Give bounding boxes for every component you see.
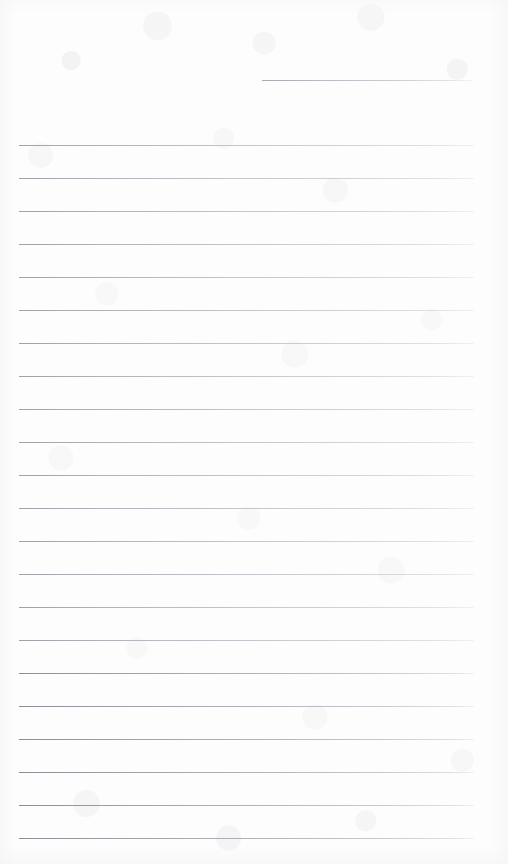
ruled-line	[19, 838, 474, 839]
ruled-line	[19, 541, 474, 542]
ruled-line	[19, 376, 474, 377]
scanned-page	[0, 0, 508, 864]
ruled-line	[19, 244, 474, 245]
ruled-line	[19, 178, 474, 179]
ruled-line	[19, 739, 474, 740]
ruled-line	[19, 673, 474, 674]
ruled-line	[19, 145, 474, 146]
ruled-line	[19, 574, 474, 575]
ruled-line	[19, 409, 474, 410]
ruled-line	[262, 80, 473, 81]
ruled-line	[19, 805, 474, 806]
ruled-line	[19, 277, 474, 278]
ruled-lines-layer	[0, 0, 508, 864]
ruled-line	[19, 310, 474, 311]
ruled-line	[19, 508, 474, 509]
ruled-line	[19, 706, 474, 707]
ruled-line	[19, 640, 474, 641]
ruled-line	[19, 211, 474, 212]
ruled-line	[19, 772, 474, 773]
ruled-line	[19, 442, 474, 443]
ruled-line	[19, 475, 474, 476]
ruled-line	[19, 343, 474, 344]
ruled-line	[19, 607, 474, 608]
